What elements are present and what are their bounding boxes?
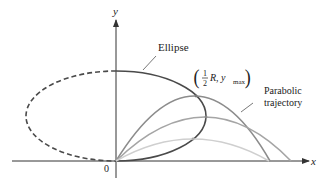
peak-point-high (195, 95, 198, 98)
x-axis-label: x (310, 155, 316, 167)
fraction-numerator: 1 (203, 69, 207, 78)
point-R-y: R, y (209, 72, 226, 83)
fraction-denominator: 2 (203, 79, 207, 88)
parabolic-label-line2: trajectory (264, 97, 302, 108)
trajectory-leader-line (241, 103, 253, 112)
ellipse-dashed-left-half (26, 71, 116, 161)
parabolic-label-line1: Parabolic (264, 85, 302, 96)
ellipse-label: Ellipse (158, 41, 189, 53)
ellipse-leader-line (143, 56, 156, 70)
trajectory-high (116, 96, 270, 161)
peak-coordinate-label: ( 1 2 R, y max ) (194, 66, 251, 89)
peak-point-mid (205, 116, 208, 119)
paren-open: ( (194, 66, 200, 89)
projectile-ellipse-diagram: y x 0 Ellipse ( 1 2 R, y max ) Parabolic… (0, 0, 322, 188)
point-subscript-max: max (233, 78, 246, 86)
y-axis-label: y (112, 5, 118, 17)
paren-close: ) (245, 66, 251, 89)
origin-label: 0 (104, 163, 109, 174)
ellipse-solid-right-half (116, 71, 206, 161)
peak-point-low (192, 138, 195, 141)
